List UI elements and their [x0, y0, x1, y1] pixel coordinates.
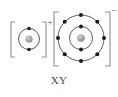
- anion-outer-electron: [63, 52, 67, 56]
- anion-outer-electron: [102, 36, 106, 40]
- ionic-bonding-diagram: +: [0, 0, 118, 97]
- anion-group: −: [54, 5, 116, 66]
- anion-outer-electron: [63, 20, 67, 24]
- compound-formula-label: XY: [51, 74, 68, 86]
- anion-inner-electron: [79, 25, 83, 29]
- cation-electron: [27, 27, 31, 31]
- anion-outer-electron: [95, 52, 99, 56]
- cation-electron: [27, 48, 31, 52]
- anion-outer-electron: [79, 13, 83, 17]
- anion-charge-symbol: −: [111, 5, 116, 15]
- anion-inner-electron: [79, 48, 83, 52]
- cation-charge-symbol: +: [48, 17, 53, 27]
- anion-outer-electron: [56, 36, 60, 40]
- cation-nucleus: [25, 35, 32, 42]
- cation-group: +: [11, 17, 53, 57]
- cation-left-bracket: [11, 22, 15, 57]
- bohr-diagram-svg: +: [0, 0, 118, 97]
- anion-right-bracket: [105, 12, 110, 66]
- anion-nucleus: [77, 34, 85, 42]
- cation-right-bracket: [42, 22, 46, 57]
- anion-outer-electron: [79, 59, 83, 63]
- anion-outer-electron: [95, 20, 99, 24]
